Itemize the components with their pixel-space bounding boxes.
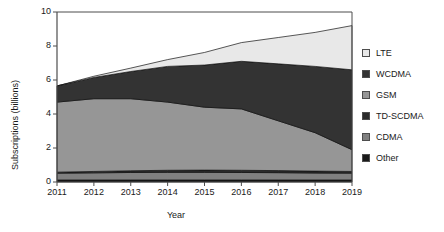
legend-swatch-icon: [362, 112, 370, 120]
y-tick-label: 8: [25, 40, 51, 50]
x-axis-title: Year: [0, 210, 352, 220]
y-axis-title: Subscriptions (billions): [10, 80, 20, 170]
area-series-cdma: [57, 172, 352, 180]
legend-swatch-icon: [362, 49, 370, 57]
legend-item-label: LTE: [376, 48, 392, 58]
chart-legend: LTEWCDMAGSMTD-SCDMACDMAOther: [362, 42, 444, 168]
legend-swatch-icon: [362, 70, 370, 78]
legend-swatch-icon: [362, 154, 370, 162]
legend-item-label: TD-SCDMA: [376, 111, 424, 121]
x-tick-label: 2012: [74, 187, 114, 197]
x-tick-label: 2016: [221, 187, 261, 197]
legend-item-lte[interactable]: LTE: [362, 42, 444, 63]
legend-item-label: CDMA: [376, 132, 403, 142]
legend-item-cdma[interactable]: CDMA: [362, 126, 444, 147]
legend-item-other[interactable]: Other: [362, 147, 444, 168]
x-tick-label: 2013: [111, 187, 151, 197]
legend-item-label: Other: [376, 153, 399, 163]
legend-item-label: WCDMA: [376, 69, 411, 79]
legend-swatch-icon: [362, 91, 370, 99]
legend-item-label: GSM: [376, 90, 397, 100]
x-tick-label: 2019: [332, 187, 372, 197]
y-tick-label: 2: [25, 142, 51, 152]
legend-swatch-icon: [362, 133, 370, 141]
legend-item-gsm[interactable]: GSM: [362, 84, 444, 105]
x-tick-label: 2017: [258, 187, 298, 197]
y-tick-label: 4: [25, 108, 51, 118]
x-tick-label: 2015: [185, 187, 225, 197]
x-tick-label: 2018: [295, 187, 335, 197]
x-tick-label: 2014: [148, 187, 188, 197]
legend-item-td-scdma[interactable]: TD-SCDMA: [362, 105, 444, 126]
y-tick-label: 0: [25, 176, 51, 186]
y-tick-label: 6: [25, 74, 51, 84]
x-tick-label: 2011: [37, 187, 77, 197]
y-tick-label: 10: [25, 6, 51, 16]
stacked-area-chart: Subscriptions (billions) Year 0246810 20…: [0, 0, 444, 232]
legend-item-wcdma[interactable]: WCDMA: [362, 63, 444, 84]
